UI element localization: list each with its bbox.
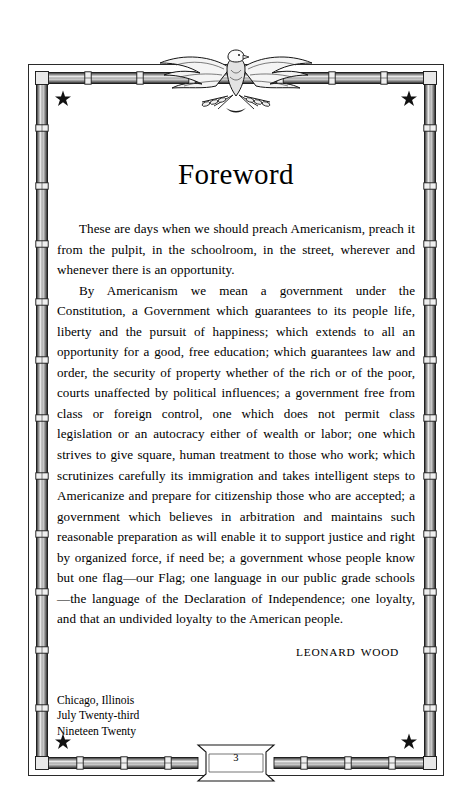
dateline-date: July Twenty-third (57, 708, 415, 723)
star-icon-top-right (401, 91, 417, 106)
page-title: Foreword (57, 160, 415, 189)
eagle-icon (160, 50, 312, 113)
border-rail-left (36, 72, 48, 769)
page-number: 3 (0, 752, 472, 763)
signature-line: LEONARD WOOD (57, 646, 415, 658)
dateline-place: Chicago, Illinois (57, 693, 415, 708)
border-rail-top (36, 72, 436, 84)
foreword-paragraph-2: By Americanism we mean a government unde… (57, 281, 415, 630)
foreword-content: Foreword These are days when we should p… (57, 160, 415, 739)
document-page: Foreword These are days when we should p… (0, 0, 472, 808)
page-number-cartouche (198, 745, 274, 781)
foreword-paragraph-1: These are days when we should preach Ame… (57, 219, 415, 281)
dateline-year: Nineteen Twenty (57, 724, 415, 739)
border-rail-right (424, 72, 436, 769)
star-icon-top-left (55, 91, 71, 106)
dateline: Chicago, Illinois July Twenty-third Nine… (57, 693, 415, 739)
